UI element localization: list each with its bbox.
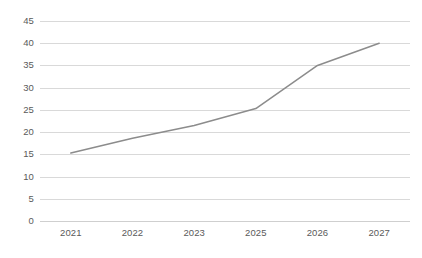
y-tick-label: 20 [0,127,34,137]
line-chart: 45 40 35 30 25 20 15 10 5 0 2021 2022 20… [0,0,422,258]
y-tick-label: 35 [0,60,34,70]
series-line [71,43,379,153]
plot-area [40,21,410,221]
x-tick-label: 2026 [295,227,341,238]
y-tick-label: 30 [0,83,34,93]
gridline-zero [40,221,410,222]
x-tick-label: 2023 [171,227,217,238]
x-tick-label: 2022 [110,227,156,238]
y-tick-label: 40 [0,38,34,48]
x-axis: 2021 2022 2023 2025 2026 2027 [40,227,410,243]
series-layer [40,21,410,221]
y-tick-label: 45 [0,16,34,26]
y-axis: 45 40 35 30 25 20 15 10 5 0 [0,0,34,258]
y-tick-label: 10 [0,172,34,182]
y-tick-label: 25 [0,105,34,115]
x-tick-label: 2021 [48,227,94,238]
y-tick-label: 15 [0,149,34,159]
y-tick-label: 5 [0,194,34,204]
x-tick-label: 2027 [356,227,402,238]
y-tick-label: 0 [0,216,34,226]
x-tick-label: 2025 [233,227,279,238]
